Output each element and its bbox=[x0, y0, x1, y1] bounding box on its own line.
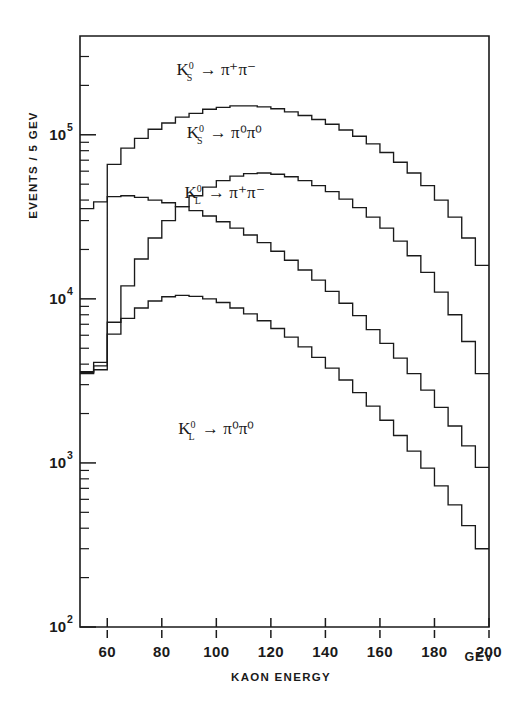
x-tick-label: 100 bbox=[203, 643, 229, 660]
x-axis-ticks bbox=[107, 618, 489, 638]
x-tick-label: 80 bbox=[153, 643, 171, 660]
y-tick-label: 10 bbox=[49, 618, 66, 635]
kaon-energy-spectrum-chart: 102103104105 6080100120140160180200 K0S … bbox=[0, 0, 517, 723]
x-axis-unit-text: GEV bbox=[465, 650, 494, 664]
x-tick-label: 160 bbox=[367, 643, 393, 660]
series-label-Ks_pi+pi-: K0S → π⁺π⁻ bbox=[177, 60, 257, 83]
y-tick-label: 10 bbox=[49, 290, 66, 307]
figure-container: 102103104105 6080100120140160180200 K0S … bbox=[0, 0, 517, 723]
x-axis-title-text: KAON ENERGY bbox=[231, 671, 331, 683]
x-tick-label: 180 bbox=[421, 643, 447, 660]
x-tick-label: 140 bbox=[312, 643, 338, 660]
x-axis-tick-labels: 6080100120140160180200 bbox=[99, 643, 503, 660]
histogram-curve-Ks_pi+pi- bbox=[80, 106, 489, 265]
series-label-KL_pi+pi-: K0L → π⁺π⁻ bbox=[184, 183, 264, 206]
x-tick-label: 60 bbox=[99, 643, 117, 660]
histogram-curves bbox=[80, 106, 489, 549]
x-axis-title: KAON ENERGY bbox=[231, 671, 331, 683]
series-label-text: K0S → π⁰π⁰ bbox=[187, 123, 263, 146]
y-axis-tick-labels: 102103104105 bbox=[49, 121, 73, 635]
x-tick-label: 120 bbox=[258, 643, 284, 660]
y-axis-title: EVENTS / 5 GEV bbox=[27, 111, 39, 219]
y-tick-label: 10 bbox=[49, 126, 66, 143]
histogram-curve-KL_pi0pi0 bbox=[80, 295, 489, 548]
y-tick-label: 10 bbox=[49, 454, 66, 471]
y-tick-label-exponent: 4 bbox=[67, 285, 73, 297]
series-label-text: K0L → π⁺π⁻ bbox=[184, 183, 264, 206]
series-label-KL_pi0pi0: K0L → π⁰π⁰ bbox=[178, 419, 254, 442]
histogram-curve-Ks_pi0pi0 bbox=[80, 173, 489, 374]
y-tick-label-exponent: 2 bbox=[67, 613, 73, 625]
series-label-Ks_pi0pi0: K0S → π⁰π⁰ bbox=[187, 123, 263, 146]
y-axis-ticks bbox=[80, 56, 96, 627]
series-label-text: K0S → π⁺π⁻ bbox=[177, 60, 257, 83]
x-axis-unit: GEV bbox=[465, 650, 494, 664]
y-axis-title-text: EVENTS / 5 GEV bbox=[27, 111, 39, 219]
y-tick-label-exponent: 5 bbox=[67, 121, 73, 133]
series-label-text: K0L → π⁰π⁰ bbox=[178, 419, 254, 442]
y-tick-label-exponent: 3 bbox=[67, 449, 73, 461]
series-annotations: K0S → π⁺π⁻K0S → π⁰π⁰K0L → π⁺π⁻K0L → π⁰π⁰ bbox=[177, 60, 265, 442]
